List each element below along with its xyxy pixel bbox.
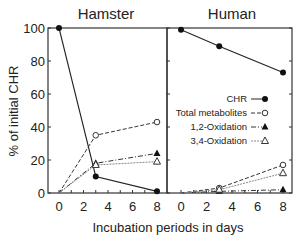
- y-tick-label: 100: [23, 21, 45, 36]
- series-human-total-metabolites: [181, 162, 286, 193]
- tick-labels: 0204060801000246802468: [23, 21, 286, 214]
- data-series: [56, 25, 287, 194]
- series-hamster-1-2-oxidation: [59, 149, 161, 193]
- svg-text:1,2-Oxidation: 1,2-Oxidation: [190, 121, 247, 132]
- legend: CHRTotal metabolites1,2-Oxidation3,4-Oxi…: [176, 93, 269, 146]
- x-tick-label: 4: [228, 199, 235, 214]
- legend-item: 1,2-Oxidation: [190, 121, 268, 132]
- y-axis-label: % of initial CHR: [6, 65, 21, 156]
- series-hamster-3-4-oxidation: [59, 158, 161, 193]
- y-tick-label: 0: [38, 186, 45, 201]
- x-tick-label: 2: [80, 199, 87, 214]
- svg-text:CHR: CHR: [226, 93, 247, 104]
- series-hamster-chr: [56, 25, 160, 194]
- x-tick-label: 6: [129, 199, 136, 214]
- x-tick-label: 0: [55, 199, 62, 214]
- x-tick-label: 8: [153, 199, 160, 214]
- svg-text:Total metabolites: Total metabolites: [176, 107, 248, 118]
- x-tick-label: 2: [203, 199, 210, 214]
- y-tick-label: 80: [31, 54, 45, 69]
- panel-title-hamster: Hamster: [78, 5, 135, 22]
- panel-title-human: Human: [208, 5, 256, 22]
- legend-item: Total metabolites: [176, 107, 268, 118]
- svg-text:3,4-Oxidation: 3,4-Oxidation: [190, 135, 247, 146]
- plot-frames: [48, 28, 292, 193]
- y-tick-label: 40: [31, 120, 45, 135]
- series-human-3-4-oxidation: [181, 169, 287, 193]
- x-axis-label: Incubation periods in days: [92, 220, 244, 235]
- x-tick-label: 4: [104, 199, 111, 214]
- x-tick-label: 8: [279, 199, 286, 214]
- x-tick-label: 0: [177, 199, 184, 214]
- series-human-chr: [178, 27, 286, 76]
- y-tick-label: 20: [31, 153, 45, 168]
- legend-item: 3,4-Oxidation: [190, 135, 268, 146]
- legend-item: CHR: [226, 93, 268, 104]
- x-tick-label: 6: [254, 199, 261, 214]
- chart: Hamster Human % of initial CHR Incubatio…: [0, 0, 300, 242]
- y-tick-label: 60: [31, 87, 45, 102]
- axis-ticks: [48, 28, 292, 193]
